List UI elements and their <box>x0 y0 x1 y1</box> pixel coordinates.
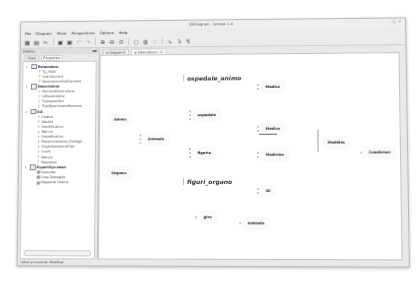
toolbar-separator <box>52 39 53 46</box>
select-tool-icon[interactable]: ↘ <box>166 37 173 44</box>
tab-properties[interactable]: Properties <box>41 55 63 61</box>
menu-perspectives[interactable]: Perspectives <box>71 30 94 35</box>
panel-options-icon[interactable]: ▪▪ <box>92 49 97 53</box>
node-ports <box>360 152 362 154</box>
tree-item[interactable]: ▦Rapporto Ordine <box>25 180 95 185</box>
port-handle[interactable] <box>195 216 197 218</box>
node-ports <box>189 148 191 158</box>
diagram-node[interactable]: giro <box>195 212 216 222</box>
tree-item-label: IdEsposizione <box>42 95 65 99</box>
save-icon[interactable]: ▣ <box>57 39 64 46</box>
zoom-fit-icon[interactable]: ⊙ <box>118 38 125 45</box>
diagram-node[interactable]: Animale <box>139 134 168 144</box>
folder-icon <box>30 84 36 90</box>
diagram-node[interactable]: ospedale <box>189 110 220 120</box>
port-handle[interactable] <box>257 156 259 158</box>
node-ports <box>257 188 259 194</box>
diagram-node[interactable]: figuria <box>189 148 215 158</box>
relation-line[interactable] <box>259 134 277 135</box>
menu-show[interactable]: Show <box>57 31 67 36</box>
zoom-out-icon[interactable]: ⊖ <box>109 38 116 45</box>
node-ports <box>239 223 241 225</box>
diagram-canvas[interactable]: ospedale_animofiguri_organoAnimoAnimaleO… <box>98 52 403 260</box>
settings-icon[interactable]: ◍ <box>142 38 149 45</box>
tree-item-label: NumeroDescrizione <box>42 89 74 93</box>
open-icon[interactable]: ▤ <box>33 39 40 46</box>
menu-help[interactable]: Help <box>119 30 128 35</box>
zoom-in-icon[interactable]: ⊕ <box>99 38 106 45</box>
port-handle[interactable] <box>189 148 191 150</box>
port-handle[interactable] <box>257 192 259 194</box>
horizontal-scrollbar[interactable] <box>24 250 91 256</box>
node-label: Medicina <box>262 150 288 160</box>
vertical-scrollbar[interactable] <box>400 53 403 259</box>
port-handle[interactable] <box>257 84 259 86</box>
expand-toggle-icon[interactable]: ▾ <box>26 110 29 114</box>
expand-toggle-icon[interactable]: ▾ <box>25 165 28 169</box>
port-handle[interactable] <box>257 188 259 190</box>
field-icon: ⊤ <box>37 104 40 109</box>
tree-item-label: Sub Element <box>42 74 63 78</box>
port-handle[interactable] <box>189 152 191 154</box>
expand-toggle-icon[interactable]: ▾ <box>26 65 29 69</box>
save-all-icon[interactable]: ▣ <box>66 38 73 45</box>
diagram-node[interactable]: Medicina <box>257 150 288 160</box>
editor-area: ⇲ Diagram1⇲ Alternativo1.12 ospedale_ani… <box>98 45 409 260</box>
tree-item-label: Natura <box>41 155 52 159</box>
connector-tool-icon[interactable]: ↯ <box>185 37 192 44</box>
port-handle[interactable] <box>189 114 191 116</box>
outline-panel: Outline ▪▪ Views Properties ▾Estensione⊤… <box>18 48 100 259</box>
group-bracket <box>317 130 318 152</box>
node-ports <box>189 110 191 120</box>
diagram-title[interactable]: ospedale_animo <box>183 74 241 81</box>
diagram-node[interactable]: Medico <box>257 124 284 134</box>
minimize-button[interactable]: – <box>389 20 391 24</box>
port-handle[interactable] <box>139 143 141 145</box>
node-label: Animale <box>144 134 168 144</box>
node-label: Medico <box>261 82 284 92</box>
redo-icon[interactable]: ↷ <box>85 38 92 45</box>
tree-item-label: Tipospecifico <box>42 100 64 104</box>
node-ports <box>257 84 259 90</box>
filter-icon[interactable]: ▽ <box>151 38 158 45</box>
port-handle[interactable] <box>189 110 191 112</box>
new-diagram-icon[interactable]: ▦ <box>24 39 31 46</box>
diagram-node[interactable]: ID <box>257 186 274 196</box>
port-handle[interactable] <box>239 223 241 225</box>
node-label: Animale <box>244 218 269 228</box>
tree-item-label: Identificativo <box>41 135 63 139</box>
port-handle[interactable] <box>257 130 259 132</box>
diagram-node[interactable]: Animale <box>239 218 268 228</box>
expand-toggle-icon[interactable]: ▾ <box>26 85 29 89</box>
refresh-icon[interactable]: ○ <box>133 38 140 45</box>
close-button[interactable]: × <box>398 19 401 23</box>
port-handle[interactable] <box>257 88 259 90</box>
maximize-button[interactable]: □ <box>393 19 396 23</box>
toolbar-separator <box>95 38 96 45</box>
toolbar-separator <box>128 38 129 45</box>
menu-file[interactable]: File <box>25 31 31 36</box>
menu-options[interactable]: Options <box>100 30 114 35</box>
tab-views[interactable]: Views <box>25 55 39 61</box>
port-handle[interactable] <box>360 152 362 154</box>
port-handle[interactable] <box>139 134 141 136</box>
diagram-title[interactable]: figuri_organo <box>183 178 232 185</box>
cut-icon[interactable]: ✂ <box>42 39 49 46</box>
tree-item-label: TipoDescrizioneNumero <box>42 104 81 108</box>
relation-tool-icon[interactable]: ↴ <box>175 37 182 44</box>
undo-icon[interactable]: ↶ <box>75 38 82 45</box>
port-handle[interactable] <box>257 126 259 128</box>
node-ports <box>257 126 259 132</box>
diagram-node[interactable]: Condicioni <box>360 147 394 157</box>
diagram-node[interactable]: Medidas <box>324 137 349 147</box>
node-label: Medico <box>262 124 285 134</box>
port-handle[interactable] <box>189 156 191 158</box>
port-handle[interactable] <box>139 138 141 140</box>
tree-item-label: Identificativo <box>42 125 64 129</box>
diagram-node[interactable]: Medico <box>257 82 284 92</box>
menu-diagram[interactable]: Diagram <box>36 31 52 36</box>
diagram-node[interactable]: Animo <box>110 115 131 125</box>
port-handle[interactable] <box>189 119 191 121</box>
diagram-node[interactable]: Organo <box>107 168 130 178</box>
port-handle[interactable] <box>257 152 259 154</box>
